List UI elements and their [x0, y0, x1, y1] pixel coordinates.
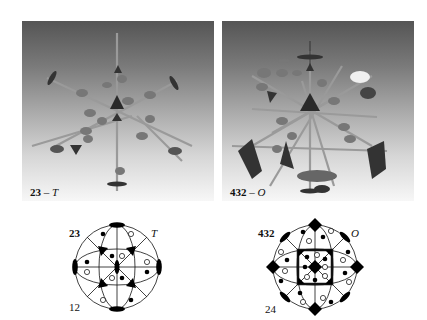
- twofold-lens: [168, 147, 182, 155]
- model-panel-23-T: 23 – T: [22, 21, 214, 201]
- threefold-triangle: [70, 145, 82, 155]
- twofold-lens: [50, 145, 64, 153]
- twofold-lens: [168, 75, 180, 91]
- threefold-triangle: [110, 95, 124, 109]
- twofold-lens: [107, 182, 127, 187]
- model-panel-432-O: 432 – O: [222, 21, 414, 201]
- fourfold-square: [350, 260, 364, 274]
- threefold-triangle: [306, 63, 314, 71]
- rotation-axes: [32, 33, 192, 191]
- threefold-triangle: [267, 91, 277, 103]
- stereogram-23: 23 T 12: [55, 205, 205, 320]
- twofold-lens: [109, 222, 125, 228]
- schoenflies-symbol: T: [52, 186, 58, 198]
- twofold-lens: [156, 259, 162, 275]
- hm-symbol: 23: [30, 186, 41, 198]
- axis-markers: [46, 65, 182, 187]
- twofold-lens: [115, 260, 120, 274]
- fourfold-square: [308, 302, 322, 316]
- symmetry-model-432: [222, 21, 414, 201]
- caption-dash: –: [247, 186, 258, 198]
- twofold-lens: [350, 71, 370, 83]
- schoenflies-symbol: O: [258, 186, 266, 198]
- fourfold-square: [308, 218, 322, 232]
- stereogram-432-projection: [245, 205, 395, 320]
- fourfold-square: [367, 141, 386, 179]
- hm-symbol: 432: [230, 186, 247, 198]
- caption-dash: –: [41, 186, 52, 198]
- axis-rod: [270, 66, 342, 186]
- motif-cluster: [360, 87, 376, 99]
- model-caption: 23 – T: [30, 186, 58, 198]
- stereogram-432: 432 O 24: [245, 205, 395, 320]
- threefold-triangle: [114, 65, 122, 73]
- model-caption: 432 – O: [230, 186, 265, 198]
- stereogram-23-projection: [55, 205, 205, 320]
- motif-cluster: [297, 170, 337, 182]
- motif-cluster: [314, 185, 330, 193]
- twofold-lens: [72, 259, 78, 275]
- fourfold-square: [297, 55, 323, 60]
- threefold-triangle: [300, 93, 320, 111]
- fourfold-square: [238, 139, 262, 179]
- fourfold-square: [266, 260, 280, 274]
- twofold-lens: [109, 306, 125, 312]
- symmetry-model-23: [22, 21, 214, 201]
